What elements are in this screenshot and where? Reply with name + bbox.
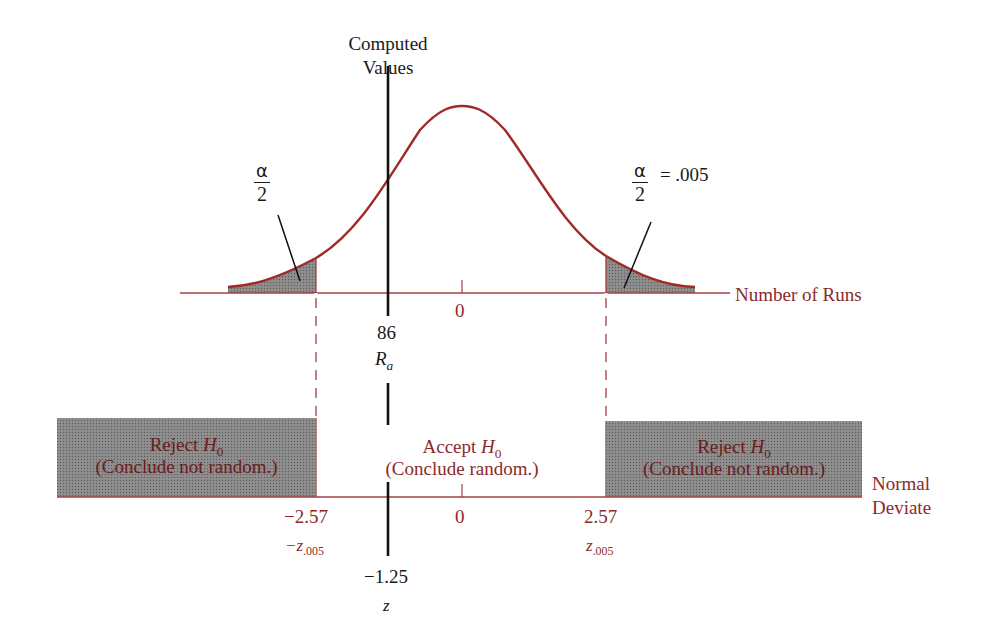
reject-right-line2: (Conclude not random.) [606,458,862,480]
accept-text: Accept H0 (Conclude random.) [376,436,548,480]
alpha-symbol: α [632,160,648,183]
alpha-value: = .005 [660,164,709,185]
reject-left-line2: (Conclude not random.) [57,456,316,478]
runs-axis-zero-label: 0 [455,300,465,322]
alpha-fraction-left: α 2 [254,160,270,205]
alpha-half-right: α 2 = .005 [632,160,709,205]
alpha-denominator: 2 [257,183,267,205]
r-subscript: a [387,358,394,373]
tick-pos-critical: 2.57 [584,506,617,528]
alpha-denominator: 2 [635,183,645,205]
tick-neg-critical-symbol: −z.005 [285,536,324,556]
computed-z-value: −1.25 [364,566,408,588]
reject-left-line1: Reject H0 [57,434,316,456]
reject-left-text: Reject H0 (Conclude not random.) [57,434,316,478]
alpha-half-left: α 2 [254,160,270,205]
alpha-symbol: α [254,160,270,183]
computed-values-label: Computed Values [322,32,454,80]
accept-line2: (Conclude random.) [376,458,548,480]
tick-neg-critical: −2.57 [284,506,328,528]
tick-pos-critical-symbol: z.005 [586,536,613,556]
normal-curve [228,106,695,287]
alpha-fraction-right: α 2 [632,160,648,205]
computed-label-line1: Computed [322,32,454,56]
runs-axis-label: Number of Runs [735,284,862,306]
computed-z-symbol: z [383,596,390,616]
computed-runs-value: 86 [377,322,396,344]
runs-test-diagram [0,0,995,643]
deviate-label-line2: Deviate [872,496,931,520]
accept-line1: Accept H0 [376,436,548,458]
deviate-label-line1: Normal [872,472,931,496]
right-tail-shade [606,256,695,293]
left-tail-shade [228,258,316,293]
reject-right-line1: Reject H0 [606,436,862,458]
reject-right-text: Reject H0 (Conclude not random.) [606,436,862,480]
tick-zero: 0 [455,506,465,528]
computed-label-line2: Values [322,56,454,80]
computed-runs-symbol: Ra [375,348,393,370]
deviate-axis-label: Normal Deviate [872,472,931,520]
r-symbol: R [375,348,387,369]
